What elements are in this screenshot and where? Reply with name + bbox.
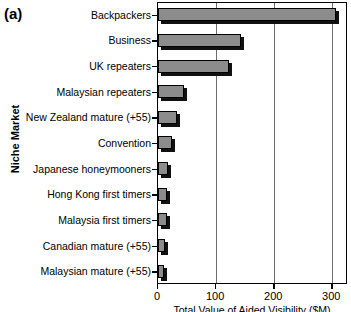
x-axis-title: Total Value of Aided Visibility ($M) xyxy=(157,304,347,312)
bar xyxy=(158,34,241,47)
y-axis-tick xyxy=(152,271,157,272)
x-axis-tick xyxy=(215,284,216,289)
y-axis-tick xyxy=(152,40,157,41)
y-axis-tick xyxy=(152,194,157,195)
bar xyxy=(158,239,165,252)
gridline-200 xyxy=(274,3,275,283)
category-label: Convention xyxy=(98,136,151,150)
y-axis-tick xyxy=(152,66,157,67)
y-axis-tick xyxy=(152,143,157,144)
plot-inner xyxy=(158,3,346,283)
bar xyxy=(158,265,164,278)
category-label: Canadian mature (+55) xyxy=(43,239,151,253)
bar xyxy=(158,136,172,149)
category-label: Malaysia first timers xyxy=(58,213,151,227)
bar xyxy=(158,213,167,226)
bar xyxy=(158,85,184,98)
gridline-300 xyxy=(332,3,333,283)
x-axis-tick xyxy=(331,284,332,289)
x-axis-tick xyxy=(157,284,158,289)
category-label: UK repeaters xyxy=(89,59,151,73)
category-label: Japanese honeymooners xyxy=(33,162,151,176)
bar xyxy=(158,111,177,124)
y-axis-tick xyxy=(152,246,157,247)
y-axis-tick xyxy=(152,117,157,118)
category-label: Malaysian mature (+55) xyxy=(40,264,151,278)
category-label: Backpackers xyxy=(91,8,151,22)
bar xyxy=(158,8,336,21)
category-label: Hong Kong first timers xyxy=(47,187,151,201)
y-axis-tick xyxy=(152,220,157,221)
bar xyxy=(158,188,167,201)
category-label: Malaysian repeaters xyxy=(56,85,151,99)
y-axis-tick xyxy=(152,92,157,93)
bar xyxy=(158,60,229,73)
figure-panel-a: (a) Niche Market BackpackersBusinessUK r… xyxy=(0,0,351,312)
x-axis-tick-label: 100 xyxy=(206,290,224,303)
plot-area xyxy=(157,2,347,284)
x-axis-tick-label: 300 xyxy=(322,290,340,303)
x-axis-tick xyxy=(273,284,274,289)
x-axis-tick-labels: 0100200300 xyxy=(0,290,351,304)
x-axis-tick-label: 200 xyxy=(264,290,282,303)
y-axis-tick xyxy=(152,169,157,170)
bar xyxy=(158,162,168,175)
category-tick-labels: BackpackersBusinessUK repeatersMalaysian… xyxy=(20,2,154,284)
x-axis-tick-label: 0 xyxy=(154,290,160,303)
category-label: New Zealand mature (+55) xyxy=(26,110,151,124)
y-axis-tick xyxy=(152,15,157,16)
category-label: Business xyxy=(108,33,151,47)
